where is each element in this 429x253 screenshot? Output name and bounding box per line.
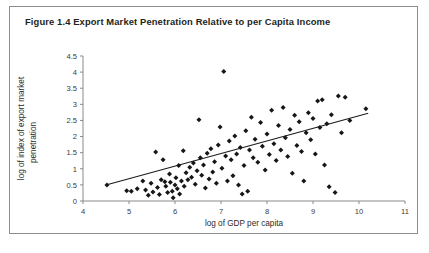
data-point [234,151,239,156]
data-point [189,175,194,180]
data-point [258,120,263,125]
y-axis-title-line1: log of index of export market [17,76,26,180]
data-point [285,154,290,159]
data-point [247,148,252,153]
data-point [333,190,338,195]
data-point [168,180,173,185]
data-point [203,186,208,191]
data-point [265,131,270,136]
data-point [245,189,250,194]
data-point [161,157,166,162]
data-point [199,173,204,178]
data-point [140,179,145,184]
data-point [167,171,172,176]
data-point [218,124,223,129]
x-tick-label: 4 [81,207,85,216]
data-point [221,69,226,74]
data-point [173,182,178,187]
data-point [171,195,176,200]
figure-panel: Figure 1.4 Export Market Penetration Rel… [9,6,418,234]
data-point [315,99,320,104]
data-point [267,152,272,157]
data-point-group [104,69,368,200]
data-point [227,139,232,144]
data-point [223,153,228,158]
data-point [308,137,313,142]
y-tick-label: 2.5 [66,116,77,125]
x-tick-label: 11 [401,207,409,216]
data-point [329,112,334,117]
data-point [311,116,316,121]
x-tick-label: 8 [265,207,269,216]
x-tick-label: 9 [311,207,315,216]
data-point [251,155,256,160]
data-point [288,127,293,132]
data-point [184,170,189,175]
data-point [176,163,181,168]
x-tick-label: 7 [219,207,223,216]
data-point [212,159,217,164]
data-point [236,182,241,187]
data-point [294,143,299,148]
data-point [260,144,265,149]
data-point [193,182,198,187]
data-point [219,166,224,171]
data-point [153,150,158,155]
data-point [271,141,276,146]
data-point [124,188,129,193]
data-point [175,186,180,191]
data-point [327,184,332,189]
data-point [249,115,254,120]
data-point [225,179,230,184]
data-point [205,151,210,156]
data-point [276,123,281,128]
data-point [182,184,187,189]
y-tick-label: 4.5 [66,52,77,61]
data-point [208,146,213,151]
data-point [242,163,247,168]
y-tick-label: 1.5 [66,148,77,157]
data-point [232,133,237,138]
data-point [104,182,109,187]
data-point [281,105,286,110]
y-tick-label: 1 [73,165,77,174]
data-point [216,142,221,147]
data-point [336,93,341,98]
data-point [185,177,190,182]
y-tick-label: 3 [73,100,77,109]
data-point [297,119,302,124]
data-point [255,160,260,165]
y-tick-label: 2 [73,132,77,141]
data-point [157,192,162,197]
data-point [253,137,258,142]
data-point [181,148,186,153]
data-point [230,173,235,178]
data-point [170,189,175,194]
x-axis-title: log of GDP per capita [205,219,284,228]
data-point [274,158,279,163]
y-tick-label: 4 [73,68,77,77]
data-point [292,113,297,118]
data-point [320,97,325,102]
data-point [163,184,168,189]
y-tick-label: 0.5 [66,181,77,190]
data-point [306,110,311,115]
data-point [177,191,182,196]
data-point [146,193,151,198]
y-tick-label: 3.5 [66,84,77,93]
data-point [313,151,318,156]
data-point [278,148,283,153]
y-axis-title-line2: penetration [29,122,38,163]
data-point [343,95,348,100]
data-point [363,106,368,111]
data-point [195,168,200,173]
data-point [229,157,234,162]
scatter-chart: 00.511.522.533.544.54567891011log of GDP… [10,7,419,235]
x-tick-label: 5 [127,207,131,216]
data-point [269,108,274,113]
data-point [207,177,212,182]
data-point [165,190,170,195]
data-point [150,189,155,194]
data-point [243,128,248,133]
data-point [135,186,140,191]
